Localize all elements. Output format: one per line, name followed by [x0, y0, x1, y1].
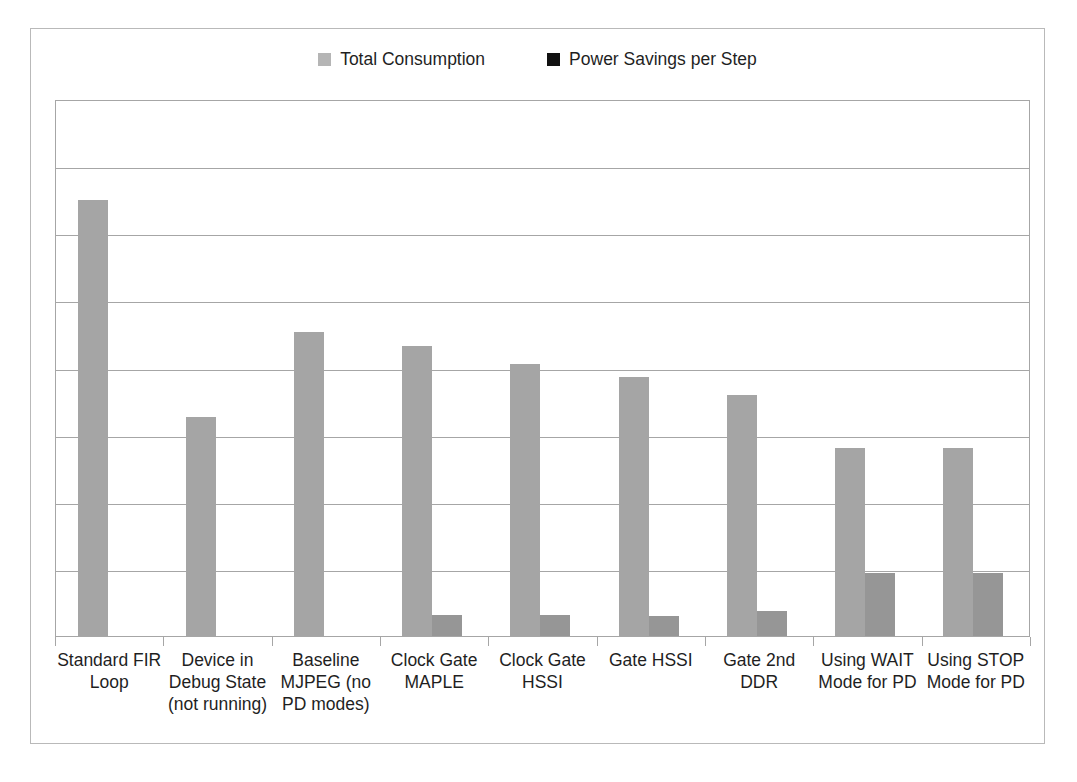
x-axis-label: Using STOPMode for PD — [922, 649, 1030, 735]
x-axis-label-line: Using STOP — [923, 649, 1029, 671]
bars-layer — [56, 101, 1029, 636]
square-swatch-icon — [547, 53, 560, 66]
x-axis-ticks — [55, 637, 1030, 647]
chart-legend: Total Consumption Power Savings per Step — [30, 44, 1045, 74]
bar-total-consumption — [510, 364, 540, 636]
x-axis-tick — [163, 637, 164, 646]
bar-power-savings — [865, 573, 895, 636]
bar-power-savings — [540, 615, 570, 636]
x-axis-tick — [597, 637, 598, 646]
x-axis-label: Using WAITMode for PD — [813, 649, 921, 735]
x-axis-label-line: HSSI — [489, 671, 595, 693]
plot-area — [55, 100, 1030, 637]
x-axis-label-line: MJPEG (no — [273, 671, 379, 693]
x-axis-label-line: Clock Gate — [381, 649, 487, 671]
bar-group — [705, 101, 813, 636]
chart-figure: Total Consumption Power Savings per Step… — [0, 0, 1077, 782]
x-axis-label: Gate 2ndDDR — [705, 649, 813, 735]
x-axis-tick — [488, 637, 489, 646]
x-axis-tick — [813, 637, 814, 646]
x-axis-tick — [272, 637, 273, 646]
x-axis-labels: Standard FIRLoopDevice inDebug State(not… — [55, 649, 1030, 735]
bar-group — [813, 101, 921, 636]
x-axis-tick — [705, 637, 706, 646]
x-axis-label: BaselineMJPEG (noPD modes) — [272, 649, 380, 735]
x-axis-label-line: Gate 2nd — [706, 649, 812, 671]
bar-power-savings — [432, 615, 462, 636]
x-axis-label-line: Mode for PD — [814, 671, 920, 693]
x-axis-label-line: Debug State — [164, 671, 270, 693]
x-axis-label-line: MAPLE — [381, 671, 487, 693]
legend-label: Total Consumption — [340, 49, 485, 69]
bar-group — [164, 101, 272, 636]
bar-total-consumption — [835, 448, 865, 636]
x-axis-label-line: Device in — [164, 649, 270, 671]
x-axis-label-line: Loop — [56, 671, 162, 693]
square-swatch-icon — [318, 53, 331, 66]
bar-total-consumption — [294, 332, 324, 636]
x-axis-label: Clock GateHSSI — [488, 649, 596, 735]
bar-group — [921, 101, 1029, 636]
x-axis-label: Device inDebug State(not running) — [163, 649, 271, 735]
bar-total-consumption — [78, 200, 108, 636]
bar-total-consumption — [727, 395, 757, 636]
x-axis-tick — [922, 637, 923, 646]
x-axis-label-line: Mode for PD — [923, 671, 1029, 693]
bar-total-consumption — [402, 346, 432, 636]
legend-item-power-savings-per-step: Power Savings per Step — [547, 49, 757, 69]
x-axis-label: Gate HSSI — [597, 649, 705, 735]
x-axis-label-line: Gate HSSI — [598, 649, 704, 671]
bar-group — [380, 101, 488, 636]
x-axis-label-line: Baseline — [273, 649, 379, 671]
legend-item-total-consumption: Total Consumption — [318, 49, 485, 69]
x-axis-label-line: (not running) — [164, 693, 270, 715]
x-axis-tick — [1030, 637, 1031, 646]
bar-power-savings — [757, 611, 787, 636]
bar-total-consumption — [186, 417, 216, 636]
legend-label: Power Savings per Step — [569, 49, 757, 69]
x-axis-label-line: Standard FIR — [56, 649, 162, 671]
bar-total-consumption — [943, 448, 973, 636]
bar-group — [272, 101, 380, 636]
x-axis-label-line: Using WAIT — [814, 649, 920, 671]
x-axis-label-line: Clock Gate — [489, 649, 595, 671]
bar-power-savings — [973, 573, 1003, 636]
x-axis-label: Standard FIRLoop — [55, 649, 163, 735]
x-axis-tick — [55, 637, 56, 646]
bar-group — [56, 101, 164, 636]
bar-group — [597, 101, 705, 636]
bar-power-savings — [649, 616, 679, 636]
bar-group — [488, 101, 596, 636]
bar-total-consumption — [619, 377, 649, 636]
x-axis-label-line: PD modes) — [273, 693, 379, 715]
x-axis-tick — [380, 637, 381, 646]
x-axis-label: Clock GateMAPLE — [380, 649, 488, 735]
x-axis-label-line: DDR — [706, 671, 812, 693]
